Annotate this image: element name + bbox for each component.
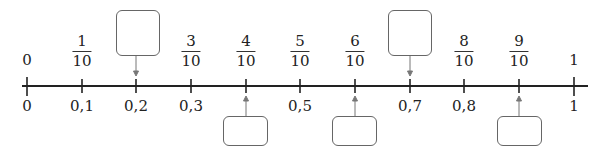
answer-box-fraction-0-7[interactable]: [388, 10, 432, 56]
answer-box-decimal-6-10[interactable]: [332, 116, 377, 146]
decimal-label-0: 0: [22, 99, 32, 114]
decimal-label-0-7: 0,7: [398, 99, 422, 114]
denominator: 10: [181, 52, 200, 69]
numerator: 3: [181, 34, 200, 52]
decimal-label-0-1: 0,1: [70, 99, 94, 114]
decimal-label-0-2: 0,2: [124, 99, 148, 114]
decimal-label-0-8: 0,8: [452, 99, 476, 114]
numerator: 1: [72, 34, 91, 52]
denominator: 10: [236, 52, 255, 69]
numerator: 8: [454, 34, 473, 52]
denominator: 10: [345, 52, 364, 69]
denominator: 10: [454, 52, 473, 69]
top-label-1: 1: [569, 53, 579, 68]
numerator: 4: [236, 34, 255, 52]
fraction-8-10: 8 10: [454, 34, 473, 69]
fraction-3-10: 3 10: [181, 34, 200, 69]
denominator: 10: [509, 52, 528, 69]
top-label-0: 0: [22, 53, 32, 68]
denominator: 10: [72, 52, 91, 69]
fraction-9-10: 9 10: [509, 34, 528, 69]
answer-box-decimal-4-10[interactable]: [223, 116, 268, 146]
decimal-label-1: 1: [569, 99, 579, 114]
decimal-label-0-3: 0,3: [179, 99, 203, 114]
fraction-6-10: 6 10: [345, 34, 364, 69]
answer-box-fraction-0-2[interactable]: [116, 10, 160, 56]
decimal-label-0-5: 0,5: [288, 99, 312, 114]
answer-box-decimal-9-10[interactable]: [497, 116, 542, 146]
numerator: 6: [345, 34, 364, 52]
fraction-4-10: 4 10: [236, 34, 255, 69]
fraction-5-10: 5 10: [290, 34, 309, 69]
numerator: 9: [509, 34, 528, 52]
denominator: 10: [290, 52, 309, 69]
fraction-1-10: 1 10: [72, 34, 91, 69]
numerator: 5: [290, 34, 309, 52]
